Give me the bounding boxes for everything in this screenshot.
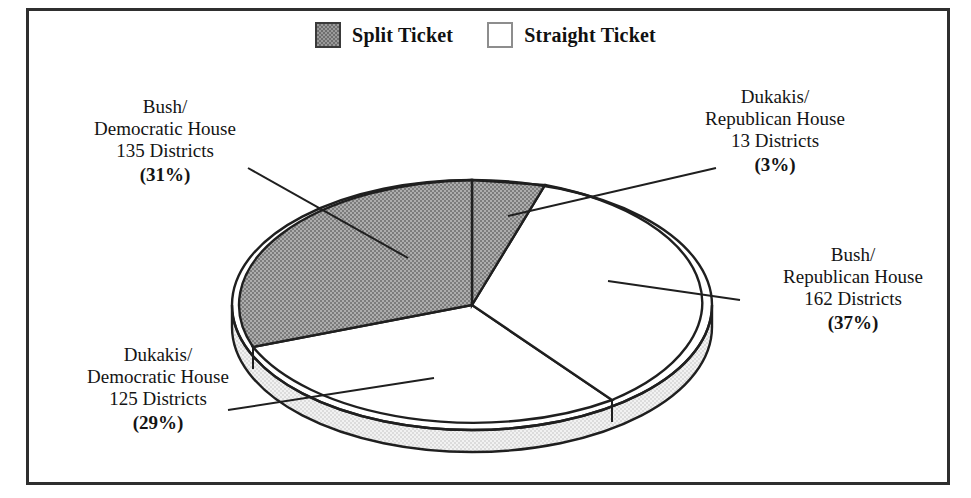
callout-districts: 135 Districts: [50, 140, 280, 162]
callout-percent: (3%): [658, 154, 892, 176]
callout-dukakis-republican-house: Dukakis/ Republican House 13 Districts (…: [658, 86, 892, 176]
callout-percent: (31%): [50, 164, 280, 186]
callout-line-1: Bush/: [50, 96, 280, 118]
callout-districts: 125 Districts: [36, 388, 280, 410]
callout-line-2: Republican House: [658, 108, 892, 130]
callout-districts: 13 Districts: [658, 130, 892, 152]
callout-bush-democratic-house: Bush/ Democratic House 135 Districts (31…: [50, 96, 280, 186]
callout-line-2: Republican House: [742, 266, 964, 288]
callout-bush-republican-house: Bush/ Republican House 162 Districts (37…: [742, 244, 964, 334]
chart-canvas: Split Ticket Straight Ticket: [0, 0, 971, 498]
callout-dukakis-democratic-house: Dukakis/ Democratic House 125 Districts …: [36, 344, 280, 434]
callout-line-2: Democratic House: [50, 118, 280, 140]
callout-line-1: Dukakis/: [658, 86, 892, 108]
callout-percent: (29%): [36, 412, 280, 434]
callout-line-2: Democratic House: [36, 366, 280, 388]
callout-line-1: Bush/: [742, 244, 964, 266]
callout-percent: (37%): [742, 312, 964, 334]
callout-line-1: Dukakis/: [36, 344, 280, 366]
callout-districts: 162 Districts: [742, 288, 964, 310]
